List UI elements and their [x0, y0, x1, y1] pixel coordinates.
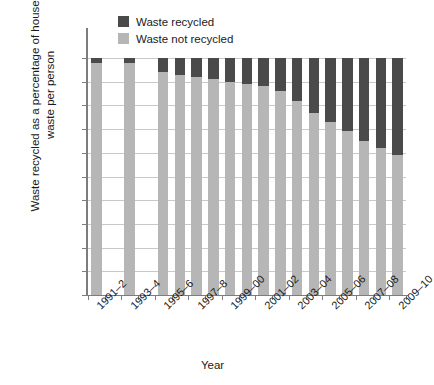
bar-segment-recycled	[258, 58, 269, 86]
y-tick-mark	[82, 177, 87, 178]
y-tick-mark	[82, 248, 87, 249]
bar-segment-not-recycled	[175, 75, 186, 295]
x-tick-mark	[88, 295, 89, 300]
bar-segment-not-recycled	[124, 63, 135, 295]
legend-swatch-recycled-icon	[118, 16, 129, 27]
y-tick-mark	[82, 105, 87, 106]
y-tick-mark	[82, 271, 87, 272]
bar-segment-recycled	[225, 58, 236, 82]
bar-segment-not-recycled	[342, 131, 353, 295]
bar-group	[105, 58, 122, 295]
bar-group	[138, 58, 155, 295]
y-tick-mark	[82, 200, 87, 201]
bar-group	[255, 58, 272, 295]
bar-group	[88, 58, 105, 295]
bar-segment-not-recycled	[325, 122, 336, 295]
bar-group	[155, 58, 172, 295]
bar-group	[222, 58, 239, 295]
bar-segment-not-recycled	[359, 141, 370, 295]
plot-area: 0%10%20%30%40%50%60%70%80%90%100% 1991–2…	[88, 58, 406, 295]
bar-segment-recycled	[208, 58, 219, 79]
legend-swatch-not-recycled-icon	[118, 33, 129, 44]
legend-item-waste-not-recycled: Waste not recycled	[118, 30, 233, 47]
bar-group	[373, 58, 390, 295]
y-tick-mark	[82, 129, 87, 130]
bar-segment-not-recycled	[258, 86, 269, 295]
bar-group	[289, 58, 306, 295]
bar-segment-not-recycled	[91, 63, 102, 295]
bar-segment-not-recycled	[208, 79, 219, 295]
bar-segment-recycled	[376, 58, 387, 148]
y-tick-mark	[82, 153, 87, 154]
bar-group	[239, 58, 256, 295]
x-axis-title: Year	[0, 359, 425, 371]
x-tick-mark	[389, 295, 390, 300]
bar-segment-not-recycled	[309, 113, 320, 295]
bar-segment-recycled	[392, 58, 403, 155]
bar-group	[272, 58, 289, 295]
bar-segment-not-recycled	[242, 84, 253, 295]
y-tick-mark	[82, 295, 87, 296]
bar-group	[121, 58, 138, 295]
bar-group	[322, 58, 339, 295]
x-tick-mark	[255, 295, 256, 300]
bar-segment-recycled	[275, 58, 286, 91]
bar-group	[389, 58, 406, 295]
x-tick-mark	[222, 295, 223, 300]
bar-segment-recycled	[175, 58, 186, 75]
bar-segment-recycled	[191, 58, 202, 77]
x-tick-mark	[121, 295, 122, 300]
chart-legend: Waste recycled Waste not recycled	[118, 13, 233, 47]
x-tick-mark	[188, 295, 189, 300]
legend-label-not-recycled: Waste not recycled	[136, 33, 233, 45]
bar-segment-not-recycled	[376, 148, 387, 295]
bar-segment-recycled	[325, 58, 336, 122]
bar-segment-recycled	[91, 58, 102, 63]
x-tick-mark	[155, 295, 156, 300]
bar-segment-not-recycled	[191, 77, 202, 295]
legend-label-recycled: Waste recycled	[136, 16, 214, 28]
bar-segment-not-recycled	[275, 91, 286, 295]
bar-segment-recycled	[242, 58, 253, 84]
y-axis-title: Waste recycled as a percentage of househ…	[28, 0, 58, 215]
bar-segment-recycled	[292, 58, 303, 101]
bar-segment-recycled	[359, 58, 370, 141]
bars-layer	[88, 58, 406, 295]
bar-group	[356, 58, 373, 295]
y-tick-mark	[82, 224, 87, 225]
bar-group	[172, 58, 189, 295]
bar-group	[205, 58, 222, 295]
bar-segment-not-recycled	[292, 101, 303, 295]
bar-group	[188, 58, 205, 295]
bar-segment-recycled	[124, 58, 135, 63]
bar-segment-recycled	[158, 58, 169, 72]
x-tick-mark	[289, 295, 290, 300]
y-tick-mark	[82, 58, 87, 59]
legend-item-waste-recycled: Waste recycled	[118, 13, 233, 30]
bar-segment-not-recycled	[158, 72, 169, 295]
bar-segment-recycled	[342, 58, 353, 131]
bar-segment-not-recycled	[225, 82, 236, 295]
y-tick-mark	[82, 82, 87, 83]
bar-group	[339, 58, 356, 295]
bar-segment-recycled	[309, 58, 320, 113]
x-tick-mark	[322, 295, 323, 300]
bar-group	[306, 58, 323, 295]
x-tick-mark	[356, 295, 357, 300]
